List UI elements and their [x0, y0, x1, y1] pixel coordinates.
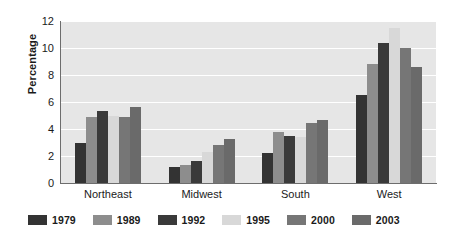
legend-item[interactable]: 2000 [287, 214, 335, 226]
bar [295, 137, 306, 183]
legend-item[interactable]: 2003 [352, 214, 400, 226]
bar [306, 123, 317, 183]
y-axis-tick-label: 0 [14, 177, 54, 189]
bar [356, 95, 367, 183]
legend-label: 1992 [182, 214, 206, 226]
bar [119, 117, 130, 183]
legend-label: 1979 [52, 214, 76, 226]
x-axis-category-label: South [281, 188, 310, 200]
bar [273, 132, 284, 183]
x-axis-category-label: Midwest [181, 188, 221, 200]
legend-item[interactable]: 1992 [158, 214, 206, 226]
bar [180, 165, 191, 183]
y-axis-tick-label: 12 [14, 15, 54, 27]
bar [262, 153, 273, 183]
y-axis-tick-label: 4 [14, 123, 54, 135]
bar [284, 136, 295, 183]
legend-label: 2003 [376, 214, 400, 226]
bar [75, 143, 86, 184]
legend-color-swatch [158, 215, 177, 225]
legend-color-swatch [28, 215, 47, 225]
plot-area [61, 21, 436, 183]
legend-label: 1989 [117, 214, 141, 226]
bar [108, 116, 119, 184]
bar-group [169, 21, 235, 183]
bar [224, 139, 235, 183]
bar-group [75, 21, 141, 183]
legend-item[interactable]: 1989 [93, 214, 141, 226]
bar-group [262, 21, 328, 183]
chart-legend: 197919891992199520002003 [28, 214, 417, 226]
legend-label: 1995 [246, 214, 270, 226]
bar [202, 152, 213, 183]
bar [191, 161, 202, 183]
legend-color-swatch [93, 215, 112, 225]
bar [367, 64, 378, 183]
y-axis-tick-label: 8 [14, 69, 54, 81]
bar [400, 48, 411, 183]
bar-group [356, 21, 422, 183]
x-axis-category-label: West [377, 188, 402, 200]
y-axis-tick-label: 2 [14, 150, 54, 162]
x-axis-category-label: Northeast [84, 188, 132, 200]
bar [130, 107, 141, 183]
legend-item[interactable]: 1979 [28, 214, 76, 226]
y-axis-tick-label: 6 [14, 96, 54, 108]
bar [97, 111, 108, 183]
bar [169, 167, 180, 183]
bar [213, 145, 224, 183]
x-axis-line [61, 183, 437, 184]
legend-color-swatch [287, 215, 306, 225]
bar [378, 43, 389, 183]
bar [86, 117, 97, 183]
legend-item[interactable]: 1995 [222, 214, 270, 226]
bar [389, 28, 400, 183]
legend-label: 2000 [311, 214, 335, 226]
legend-color-swatch [222, 215, 241, 225]
bar-chart-figure: Percentage 024681012 NortheastMidwestSou… [0, 0, 462, 246]
legend-color-swatch [352, 215, 371, 225]
y-axis-tick-label: 10 [14, 42, 54, 54]
bar [411, 67, 422, 183]
bar [317, 120, 328, 183]
